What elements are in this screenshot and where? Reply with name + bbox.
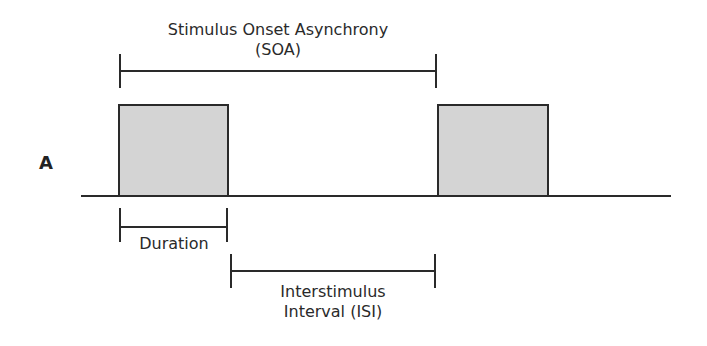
duration-bracket-left-tick (119, 208, 121, 242)
panel-letter: A (39, 152, 53, 173)
isi-bracket-line (230, 270, 436, 272)
isi-bracket-right-tick (434, 254, 436, 288)
soa-isi-diagram: Stimulus Onset Asynchrony (SOA) A Durati… (0, 0, 707, 346)
soa-label: Stimulus Onset Asynchrony (SOA) (120, 20, 436, 60)
duration-bracket-right-tick (226, 208, 228, 242)
soa-bracket-line (119, 70, 437, 72)
isi-label: Interstimulus Interval (ISI) (232, 282, 434, 322)
stimulus-1-box (118, 104, 229, 197)
soa-bracket-right-tick (435, 54, 437, 88)
isi-label-line2: Interval (ISI) (232, 302, 434, 322)
soa-label-line2: (SOA) (120, 40, 436, 60)
duration-bracket-line (119, 226, 227, 228)
isi-label-line1: Interstimulus (232, 282, 434, 302)
stimulus-2-box (437, 104, 549, 197)
time-baseline (81, 195, 671, 197)
soa-label-line1: Stimulus Onset Asynchrony (120, 20, 436, 40)
duration-label: Duration (122, 234, 226, 254)
